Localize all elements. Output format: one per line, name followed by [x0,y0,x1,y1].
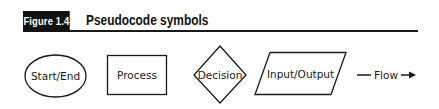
symbol-flow: Flow [357,69,416,81]
symbol-start-end: Start/End [25,55,86,97]
symbol-label: Process [117,69,157,81]
symbol-label: Decision [198,69,243,81]
symbol-process: Process [108,56,167,95]
symbol-input-output: Input/Output [255,53,346,95]
symbol-label: Input/Output [267,68,334,80]
symbol-label: Start/End [31,70,80,82]
symbol-decision: Decision [194,46,246,103]
symbol-label: Flow [374,69,398,81]
pseudocode-symbols-diagram: Start/End Process Decision Input/Output … [0,0,439,109]
arrowhead-icon [409,72,416,79]
